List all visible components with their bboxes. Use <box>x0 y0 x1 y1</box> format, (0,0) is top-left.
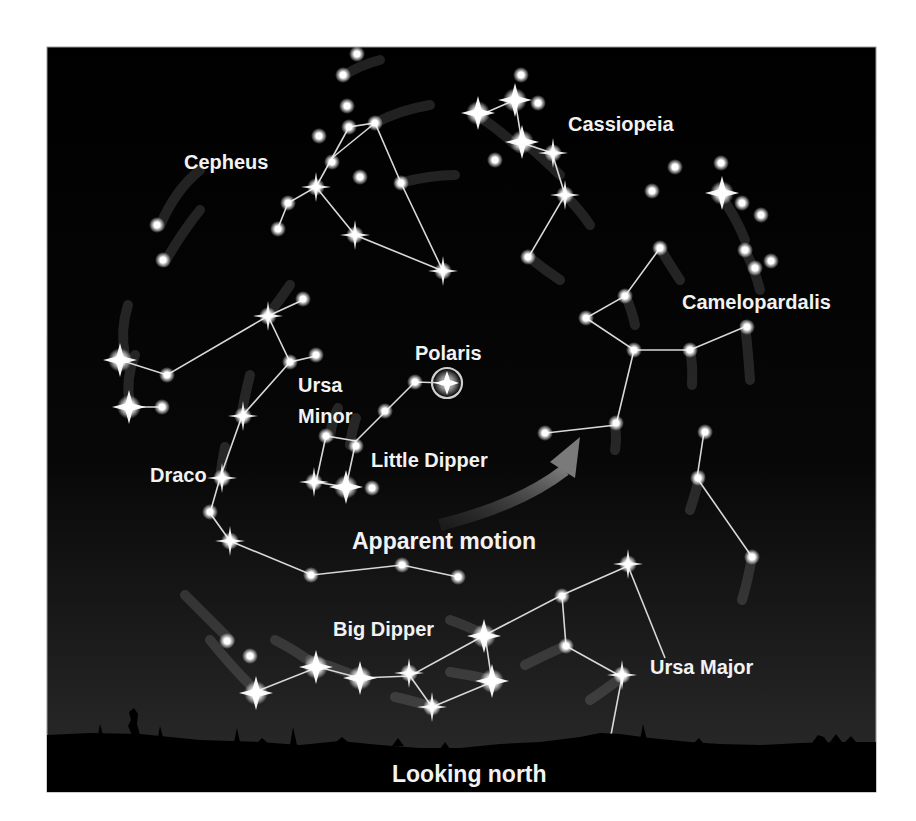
label-big-dipper: Big Dipper <box>333 618 434 640</box>
polaris-marker <box>432 368 462 398</box>
label-ursa-major: Ursa Major <box>650 656 754 678</box>
label-little-dipper: Little Dipper <box>371 449 488 471</box>
label-ursa-minor-line1: Ursa <box>298 374 343 396</box>
label-draco: Draco <box>150 464 207 486</box>
label-apparent-motion: Apparent motion <box>352 528 536 554</box>
label-ursa-minor-line2: Minor <box>298 405 353 427</box>
label-looking-north: Looking north <box>392 761 547 787</box>
label-camelopardalis: Camelopardalis <box>682 291 831 313</box>
label-polaris: Polaris <box>415 342 482 364</box>
sky-chart-figure: Cepheus Cassiopeia Camelopardalis Polari… <box>0 0 916 821</box>
label-cepheus: Cepheus <box>184 151 268 173</box>
sky-background <box>47 47 876 792</box>
label-cassiopeia: Cassiopeia <box>568 113 674 135</box>
